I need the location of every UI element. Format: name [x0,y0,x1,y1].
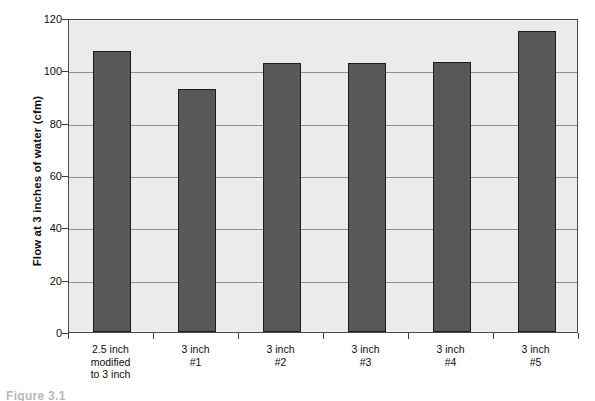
x-axis-category-label: 3 inch#2 [238,343,323,368]
gridline [69,229,577,230]
x-axis-category-label-line: #4 [408,356,493,369]
x-axis-category-label: 3 inch#3 [323,343,408,368]
x-axis-category-label-line: #3 [323,356,408,369]
x-axis-tick-mark [408,333,409,339]
bar [178,89,216,332]
x-axis-category-label-line: 3 inch [493,343,578,356]
y-axis-tick-label: 60 [22,170,62,182]
x-axis-tick-mark [493,333,494,339]
figure-bar-chart: Flow at 3 inches of water (cfm) 02040608… [0,0,595,401]
gridline [69,125,577,126]
y-axis-tick-label: 120 [22,13,62,25]
bar [433,62,471,332]
x-axis-tick-mark [68,333,69,339]
x-axis-category-label-line: 3 inch [408,343,493,356]
figure-caption: Figure 3.1 [6,389,66,401]
y-axis-tick-label: 40 [22,222,62,234]
gridline [69,177,577,178]
x-axis-category-label-line: 3 inch [238,343,323,356]
y-axis-tick-label: 0 [22,327,62,339]
x-axis-category-label: 3 inch#1 [153,343,238,368]
bar [518,31,556,332]
x-axis-category-label-line: 3 inch [153,343,238,356]
y-axis-tick-label: 100 [22,65,62,77]
x-axis-category-label-line: 3 inch [323,343,408,356]
gridline [69,72,577,73]
bar [93,51,131,332]
x-axis-category-label-line: 2.5 inch [68,343,153,356]
x-axis-category-label-line: #2 [238,356,323,369]
bar [263,63,301,332]
x-axis-category-label-line: #5 [493,356,578,369]
x-axis-tick-mark [578,333,579,339]
x-axis-category-label-line: modified [68,356,153,369]
x-axis-tick-mark [238,333,239,339]
x-axis-category-label-line: to 3 inch [68,368,153,381]
plot-area [68,19,578,333]
y-axis-tick-label: 20 [22,275,62,287]
x-axis-tick-mark [323,333,324,339]
x-axis-category-label: 3 inch#5 [493,343,578,368]
x-axis-category-label: 2.5 inchmodifiedto 3 inch [68,343,153,381]
x-axis-tick-mark [153,333,154,339]
x-axis-category-label-line: #1 [153,356,238,369]
gridline [69,282,577,283]
y-axis-tick-label: 80 [22,118,62,130]
bar [348,63,386,332]
x-axis-category-label: 3 inch#4 [408,343,493,368]
